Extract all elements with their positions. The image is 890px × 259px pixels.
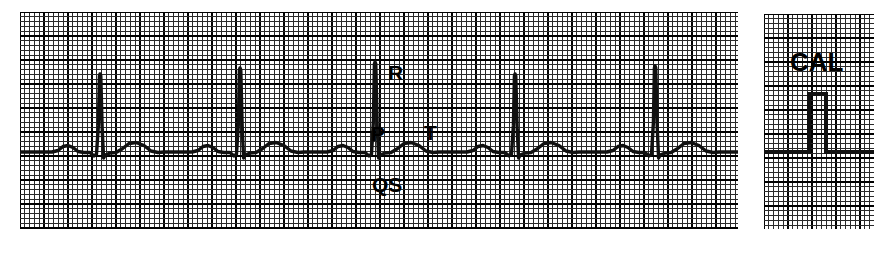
ecg-waveform-trace xyxy=(20,12,738,229)
calibration-panel: CAL xyxy=(764,14,874,229)
calibration-pulse-trace xyxy=(764,14,874,229)
ecg-figure: R P T QS CAL xyxy=(0,0,890,259)
rhythm-strip-panel: R P T QS xyxy=(20,12,738,229)
